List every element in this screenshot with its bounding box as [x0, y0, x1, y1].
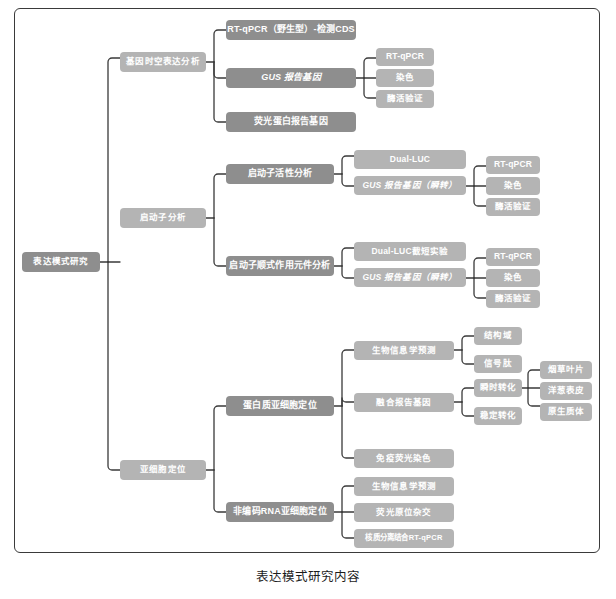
node-fluorescence-in-situ-hybridization[interactable]: 荧光原位杂交	[354, 503, 454, 522]
node-label: 酶活验证	[387, 94, 424, 103]
node-rt-qpcr-wildtype-cds[interactable]: RT-qPCR（野生型）-检测CDS	[226, 20, 356, 40]
node-label: 融合报告基因	[376, 398, 431, 407]
node-fluorescent-protein-reporter[interactable]: 荧光蛋白报告基因	[226, 112, 356, 132]
node-fusion-reporter-gene[interactable]: 融合报告基因	[354, 393, 454, 412]
node-label: RT-qPCR（野生型）-检测CDS	[227, 25, 355, 35]
node-label: Dual-LUC	[390, 155, 430, 164]
node-activity-enzyme-verification[interactable]: 酶活验证	[486, 198, 540, 216]
node-label: 免疫荧光染色	[376, 454, 431, 463]
node-label: 启动子分析	[140, 213, 186, 222]
node-gus-reporter-transient-cis[interactable]: GUS 报告基因（瞬转）	[354, 268, 466, 287]
node-gus-staining[interactable]: 染色	[376, 69, 434, 87]
node-gene-spatiotemporal-expression[interactable]: 基因时空表达分析	[120, 52, 206, 72]
node-activity-rt-qpcr[interactable]: RT-qPCR	[486, 156, 540, 174]
node-subcellular-localization[interactable]: 亚细胞定位	[120, 460, 206, 480]
node-label: 蛋白质亚细胞定位	[243, 401, 317, 411]
node-label: 染色	[396, 73, 414, 82]
node-protein-subcellular-localization[interactable]: 蛋白质亚细胞定位	[226, 396, 334, 416]
node-nucleocytoplasmic-separation-rt-qpcr[interactable]: 核质分离结合RT-qPCR	[354, 529, 454, 548]
node-label: 烟草叶片	[548, 365, 585, 374]
node-label: GUS 报告基因	[261, 73, 321, 83]
node-label: Dual-LUC截短实验	[371, 247, 448, 256]
node-label: 非编码RNA亚细胞定位	[233, 507, 327, 517]
node-label: RT-qPCR	[494, 160, 532, 169]
node-dual-luc-truncation[interactable]: Dual-LUC截短实验	[354, 242, 466, 261]
node-label: 基因时空表达分析	[126, 57, 200, 66]
node-label: 稳定转化	[480, 411, 517, 420]
node-gus-reporter-gene[interactable]: GUS 报告基因	[226, 68, 356, 88]
node-onion-epidermis[interactable]: 洋葱表皮	[540, 382, 592, 400]
node-rna-bioinformatics-prediction[interactable]: 生物信息学预测	[354, 477, 454, 496]
node-dual-luc[interactable]: Dual-LUC	[354, 150, 466, 169]
node-noncoding-rna-subcellular-localization[interactable]: 非编码RNA亚细胞定位	[226, 502, 334, 522]
node-label: 生物信息学预测	[372, 482, 436, 491]
node-protein-bioinformatics-prediction[interactable]: 生物信息学预测	[354, 341, 454, 360]
node-label: 信号肽	[484, 359, 512, 368]
node-label: 生物信息学预测	[372, 346, 436, 355]
node-label: 瞬时转化	[480, 383, 517, 392]
node-label: 染色	[504, 273, 522, 282]
node-signal-peptide[interactable]: 信号肽	[474, 355, 522, 373]
node-stable-transformation[interactable]: 稳定转化	[474, 407, 522, 425]
node-label: 荧光原位杂交	[376, 508, 431, 517]
node-cis-enzyme-verification[interactable]: 酶活验证	[486, 290, 540, 308]
node-label: GUS 报告基因（瞬转）	[362, 273, 457, 282]
node-immunofluorescence-staining[interactable]: 免疫荧光染色	[354, 449, 454, 468]
node-root[interactable]: 表达模式研究	[22, 252, 100, 272]
node-label: 亚细胞定位	[140, 465, 186, 474]
node-label: 酶活验证	[495, 294, 532, 303]
node-activity-staining[interactable]: 染色	[486, 177, 540, 195]
node-label: 结构域	[484, 331, 512, 340]
node-cis-rt-qpcr[interactable]: RT-qPCR	[486, 248, 540, 266]
node-cis-staining[interactable]: 染色	[486, 269, 540, 287]
node-label: 表达模式研究	[33, 257, 88, 266]
figure-caption: 表达模式研究内容	[0, 566, 616, 585]
node-label: 核质分离结合RT-qPCR	[365, 534, 442, 542]
node-domain[interactable]: 结构域	[474, 327, 522, 345]
node-label: RT-qPCR	[386, 52, 424, 61]
node-label: 启动子活性分析	[248, 169, 312, 179]
node-transient-transformation[interactable]: 瞬时转化	[474, 379, 522, 397]
node-label: 染色	[504, 181, 522, 190]
node-gus-enzyme-activity[interactable]: 酶活验证	[376, 90, 434, 108]
node-promoter-analysis[interactable]: 启动子分析	[120, 208, 206, 228]
node-label: RT-qPCR	[494, 252, 532, 261]
node-label: GUS 报告基因（瞬转）	[362, 181, 457, 190]
node-label: 洋葱表皮	[548, 386, 585, 395]
node-promoter-cis-element-analysis[interactable]: 启动子顺式作用元件分析	[226, 256, 334, 276]
node-label: 酶活验证	[495, 202, 532, 211]
node-tobacco-leaf[interactable]: 烟草叶片	[540, 361, 592, 379]
node-label: 原生质体	[548, 407, 585, 416]
node-promoter-activity-analysis[interactable]: 启动子活性分析	[226, 164, 334, 184]
node-gus-rt-qpcr[interactable]: RT-qPCR	[376, 48, 434, 66]
node-protoplast[interactable]: 原生质体	[540, 403, 592, 421]
node-label: 启动子顺式作用元件分析	[229, 261, 330, 271]
node-label: 荧光蛋白报告基因	[254, 117, 328, 127]
node-gus-reporter-transient-activity[interactable]: GUS 报告基因（瞬转）	[354, 176, 466, 195]
